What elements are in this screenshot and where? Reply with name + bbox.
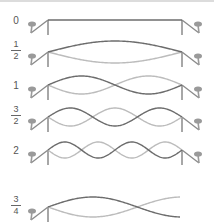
dark-wave	[48, 76, 182, 94]
tuning-peg-icon	[28, 21, 36, 26]
numerator: 1	[11, 40, 21, 49]
tuning-peg-icon	[194, 53, 202, 58]
mode-label-5: 34	[11, 195, 21, 216]
tuning-peg-icon	[194, 151, 202, 156]
tuning-peg-icon	[28, 118, 36, 123]
mode-label-0: 0	[10, 16, 22, 26]
dark-wave	[48, 41, 182, 52]
tuning-peg-icon	[194, 86, 202, 91]
light-wave	[48, 108, 182, 126]
denominator: 4	[11, 207, 21, 216]
numerator: 3	[11, 195, 21, 204]
tuning-peg-icon	[28, 53, 36, 58]
tuning-peg-icon	[194, 118, 202, 123]
numerator: 3	[11, 105, 21, 114]
mode-label-4: 2	[10, 146, 22, 156]
denominator: 2	[11, 117, 21, 126]
mode-label-3: 32	[11, 105, 21, 126]
denominator: 2	[11, 52, 21, 61]
light-wave	[48, 52, 182, 63]
dark-wave	[48, 142, 182, 158]
mode-label-2: 1	[10, 81, 22, 91]
mode-label-1: 12	[11, 40, 21, 61]
standing-wave-diagram	[0, 0, 214, 224]
tuning-peg-icon	[28, 208, 36, 213]
dark-wave	[48, 108, 182, 126]
tuning-peg-icon	[28, 151, 36, 156]
tuning-peg-icon	[194, 21, 202, 26]
tuning-peg-icon	[28, 86, 36, 91]
